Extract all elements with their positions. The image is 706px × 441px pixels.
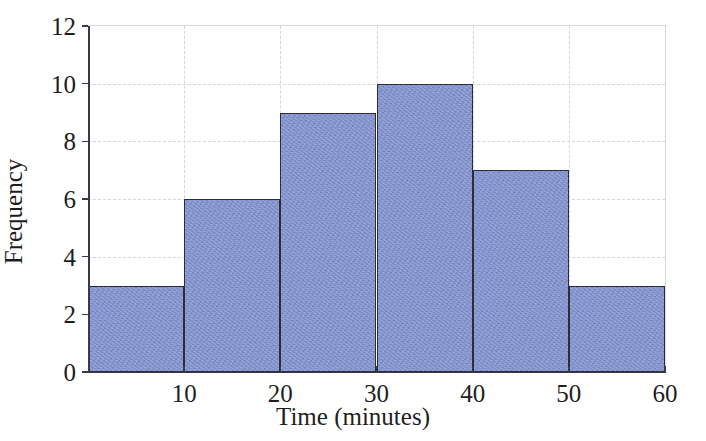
- bar-40-50: [473, 170, 569, 372]
- bar-0-10: [88, 286, 184, 373]
- y-tick-label-0: 0: [6, 360, 76, 385]
- y-tick-0: [82, 371, 88, 373]
- x-axis-title: Time (minutes): [0, 404, 706, 429]
- y-tick-2: [82, 314, 88, 316]
- y-tick-10: [82, 83, 88, 85]
- bar-30-40: [377, 84, 473, 372]
- x-tick-60: [664, 366, 666, 372]
- plot-frame-right: [665, 26, 666, 373]
- y-axis-title: Frequency: [1, 92, 26, 332]
- x-tick-20: [280, 366, 282, 372]
- x-tick-label-60: 60: [625, 381, 705, 406]
- y-tick-label-12: 12: [6, 14, 76, 39]
- y-tick-6: [82, 198, 88, 200]
- x-tick-40: [472, 366, 474, 372]
- bar-20-30: [280, 113, 376, 373]
- y-tick-12: [82, 25, 88, 27]
- x-tick-label-40: 40: [433, 381, 513, 406]
- bar-10-20: [184, 199, 280, 372]
- x-tick-label-10: 10: [144, 381, 224, 406]
- plot-area: [88, 26, 665, 372]
- y-tick-8: [82, 141, 88, 143]
- x-tick-30: [376, 366, 378, 372]
- y-tick-4: [82, 256, 88, 258]
- x-tick-label-50: 50: [529, 381, 609, 406]
- bar-50-60: [569, 286, 665, 373]
- y-axis-line: [88, 26, 90, 373]
- x-tick-50: [568, 366, 570, 372]
- histogram-figure: 024681012 102030405060 Time (minutes) Fr…: [0, 0, 706, 441]
- x-tick-10: [183, 366, 185, 372]
